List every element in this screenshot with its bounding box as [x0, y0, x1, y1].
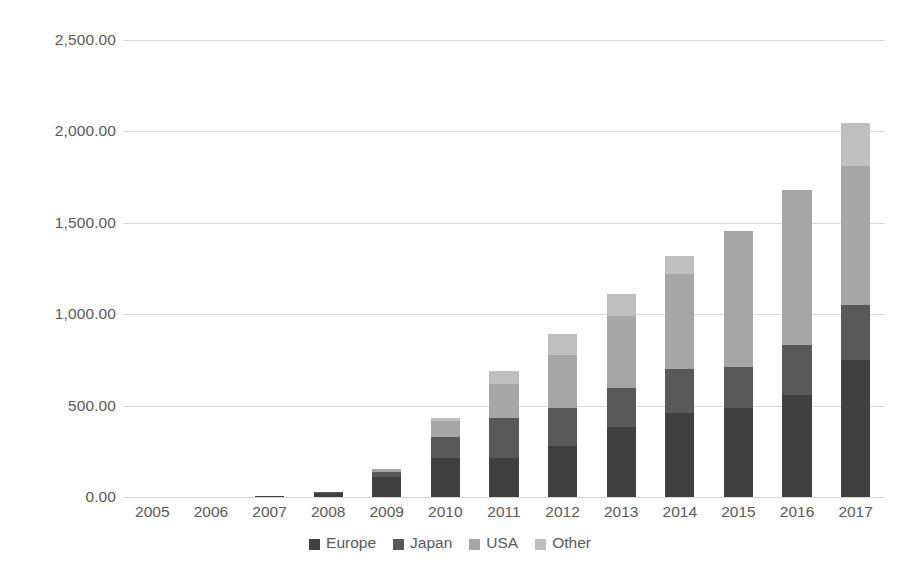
x-axis-tick-label: 2011 [475, 500, 534, 526]
bar-segment[interactable] [607, 427, 636, 497]
bar-segment[interactable] [665, 369, 694, 413]
y-axis-tick-label: 2,000.00 [16, 122, 116, 140]
gridline [123, 314, 885, 315]
gridline [123, 40, 885, 41]
bar-group[interactable] [314, 492, 343, 497]
bar-segment[interactable] [782, 395, 811, 497]
bar-segment[interactable] [782, 345, 811, 395]
x-axis-tick-label: 2009 [357, 500, 416, 526]
x-axis-tick-label: 2013 [592, 500, 651, 526]
bar-segment[interactable] [724, 231, 753, 367]
bar-segment[interactable] [841, 123, 870, 166]
bar-group[interactable] [665, 256, 694, 497]
x-axis-tick-label: 2010 [416, 500, 475, 526]
legend-label: USA [486, 534, 518, 552]
x-axis-tick-label: 2012 [533, 500, 592, 526]
bar-segment[interactable] [255, 496, 284, 497]
bar-segment[interactable] [548, 355, 577, 408]
x-axis-tick-label: 2014 [650, 500, 709, 526]
bar-segment[interactable] [841, 166, 870, 305]
legend-item[interactable]: Other [535, 534, 591, 552]
bar-segment[interactable] [607, 316, 636, 389]
bar-segment[interactable] [665, 274, 694, 369]
legend-label: Japan [410, 534, 452, 552]
bar-group[interactable] [548, 334, 577, 497]
bar-segment[interactable] [841, 305, 870, 360]
y-axis-tick-label: 1,000.00 [16, 305, 116, 323]
bar-group[interactable] [841, 123, 870, 497]
bar-segment[interactable] [724, 408, 753, 497]
legend-item[interactable]: Europe [309, 534, 376, 552]
x-axis-tick-label: 2005 [123, 500, 182, 526]
chart-legend: EuropeJapanUSAOther [0, 534, 900, 552]
legend-item[interactable]: Japan [393, 534, 452, 552]
legend-item[interactable]: USA [469, 534, 518, 552]
bar-segment[interactable] [607, 294, 636, 315]
bar-group[interactable] [782, 190, 811, 497]
bar-segment[interactable] [665, 413, 694, 497]
bar-segment[interactable] [841, 360, 870, 497]
axis-baseline [123, 497, 885, 498]
legend-swatch-europe [309, 539, 320, 550]
x-axis: 2005200620072008200920102011201220132014… [123, 500, 885, 526]
bar-segment[interactable] [607, 388, 636, 427]
gridline [123, 131, 885, 132]
bar-segment[interactable] [489, 418, 518, 458]
bar-group[interactable] [607, 294, 636, 497]
bar-segment[interactable] [431, 437, 460, 458]
bar-segment[interactable] [548, 334, 577, 354]
bar-segment[interactable] [489, 384, 518, 419]
bar-segment[interactable] [489, 371, 518, 384]
bar-segment[interactable] [314, 493, 343, 497]
gridline [123, 223, 885, 224]
legend-swatch-japan [393, 539, 404, 550]
legend-label: Europe [326, 534, 376, 552]
bar-segment[interactable] [489, 458, 518, 497]
y-axis-tick-label: 1,500.00 [16, 214, 116, 232]
bar-segment[interactable] [782, 190, 811, 345]
y-axis-tick-label: 500.00 [16, 397, 116, 415]
bar-group[interactable] [724, 231, 753, 497]
bar-group[interactable] [489, 371, 518, 497]
bar-segment[interactable] [431, 458, 460, 497]
x-axis-tick-label: 2006 [182, 500, 241, 526]
x-axis-tick-label: 2016 [768, 500, 827, 526]
x-axis-tick-label: 2017 [826, 500, 885, 526]
legend-swatch-other [535, 539, 546, 550]
bar-segment[interactable] [665, 256, 694, 274]
bar-group[interactable] [372, 469, 401, 497]
bar-segment[interactable] [431, 421, 460, 437]
bar-segment[interactable] [724, 367, 753, 409]
x-axis-tick-label: 2008 [299, 500, 358, 526]
legend-label: Other [552, 534, 591, 552]
y-axis-tick-label: 2,500.00 [16, 31, 116, 49]
bar-segment[interactable] [548, 446, 577, 497]
bar-group[interactable] [431, 418, 460, 497]
x-axis-tick-label: 2015 [709, 500, 768, 526]
y-axis: 0.00500.001,000.001,500.002,000.002,500.… [4, 40, 116, 497]
plot-area [123, 40, 885, 497]
bar-segment[interactable] [548, 408, 577, 446]
stacked-bar-chart: 0.00500.001,000.001,500.002,000.002,500.… [0, 0, 900, 586]
x-axis-tick-label: 2007 [240, 500, 299, 526]
y-axis-tick-label: 0.00 [16, 488, 116, 506]
legend-swatch-usa [469, 539, 480, 550]
bar-segment[interactable] [372, 477, 401, 497]
bar-group[interactable] [255, 496, 284, 497]
